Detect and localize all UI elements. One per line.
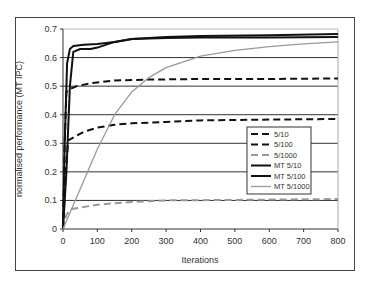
legend-label: MT 5/1000	[274, 182, 310, 191]
legend-label: 5/10	[274, 130, 289, 139]
legend-label: MT 5/100	[274, 172, 306, 181]
legend-label: 5/100	[274, 140, 293, 149]
y-tick-label: 0.4	[44, 110, 57, 120]
x-tick-label: 800	[330, 236, 345, 246]
y-tick-label: 0.3	[44, 138, 57, 148]
legend: 5/105/1005/1000MT 5/10MT 5/100MT 5/1000	[247, 127, 311, 194]
line-chart: 00.10.20.30.40.50.60.7 01002003004005006…	[0, 0, 370, 284]
y-tick-label: 0.7	[44, 24, 57, 34]
legend-label: 5/1000	[274, 151, 297, 160]
x-tick-label: 300	[159, 236, 174, 246]
y-tick-label: 0.2	[44, 167, 57, 177]
x-tick-label: 100	[90, 236, 105, 246]
x-axis-title: Iterations	[181, 255, 219, 265]
x-tick-label: 200	[124, 236, 139, 246]
y-axis-title: normalised performance (MT IPC)	[14, 61, 24, 197]
y-tick-label: 0.6	[44, 53, 57, 63]
x-tick-label: 400	[193, 236, 208, 246]
y-tick-label: 0.1	[44, 195, 57, 205]
x-tick-label: 500	[227, 236, 242, 246]
legend-label: MT 5/10	[274, 161, 301, 170]
x-tick-label: 700	[296, 236, 311, 246]
x-tick-label: 600	[262, 236, 277, 246]
x-tick-label: 0	[60, 236, 65, 246]
y-tick-label: 0	[52, 224, 57, 234]
y-tick-label: 0.5	[44, 81, 57, 91]
